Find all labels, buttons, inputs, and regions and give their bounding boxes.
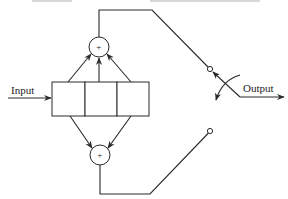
shift-register xyxy=(52,82,149,116)
top-adder-inputs xyxy=(68,54,131,82)
register-cell-3 xyxy=(117,82,149,116)
register-cell-2 xyxy=(85,82,117,116)
upper-switch-contact xyxy=(207,66,212,71)
top-adder: + xyxy=(89,37,109,57)
bottom-adder-inputs xyxy=(70,116,131,148)
register-cell-1 xyxy=(52,82,85,116)
bottom-adder-plus: + xyxy=(97,150,102,160)
top-adder-plus: + xyxy=(96,42,101,52)
input-label: Input xyxy=(11,84,34,96)
convolutional-encoder-diagram: Input + + Output xyxy=(0,0,288,199)
lower-switch-contact xyxy=(207,128,212,133)
switch-arm xyxy=(213,72,240,97)
top-output-path xyxy=(99,10,208,67)
cropped-caption xyxy=(32,0,260,2)
output-label: Output xyxy=(243,82,274,94)
bottom-output-path xyxy=(100,133,209,194)
bottom-adder: + xyxy=(90,145,110,165)
